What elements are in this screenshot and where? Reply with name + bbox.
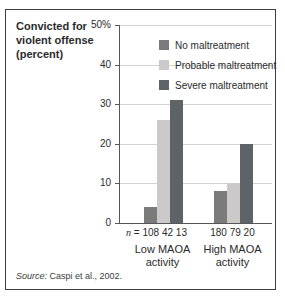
ytick-mark-20 bbox=[115, 144, 119, 145]
ytick-label-30: 30 bbox=[11, 98, 111, 110]
n-values-high-maoa-activity: 180 79 20 bbox=[210, 227, 255, 238]
gridline-50 bbox=[120, 25, 272, 26]
chart-title-line-2: violent offense bbox=[16, 33, 94, 47]
ytick-label-0: 0 bbox=[11, 217, 111, 229]
bar-severe-maltreatment-low-maoa-activity bbox=[170, 100, 183, 223]
figure-panel: Convicted for violent offense (percent) … bbox=[5, 9, 276, 290]
bar-no-maltreatment-low-maoa-activity bbox=[144, 207, 157, 223]
ytick-label-40: 40 bbox=[11, 59, 111, 71]
category-label-high-maoa-activity: High MAOAactivity bbox=[203, 243, 261, 269]
source-prefix: Source: bbox=[16, 271, 47, 281]
ytick-mark-50 bbox=[115, 25, 119, 26]
ytick-label-10: 10 bbox=[11, 177, 111, 189]
ytick-label-50: 50% bbox=[11, 19, 111, 31]
bar-no-maltreatment-high-maoa-activity bbox=[214, 191, 227, 223]
ytick-mark-10 bbox=[115, 183, 119, 184]
bar-probable-maltreatment-low-maoa-activity bbox=[157, 120, 170, 223]
legend-swatch-no-maltreatment bbox=[159, 40, 169, 50]
bar-probable-maltreatment-high-maoa-activity bbox=[227, 183, 240, 223]
category-label-low-maoa-activity: Low MAOAactivity bbox=[135, 243, 191, 269]
source-note: Source: Caspi et al., 2002. bbox=[16, 271, 122, 281]
legend: No maltreatmentProbable maltreatmentSeve… bbox=[159, 35, 276, 95]
gridline-30 bbox=[120, 104, 272, 105]
legend-swatch-severe-maltreatment bbox=[159, 80, 169, 90]
n-symbol: n bbox=[126, 227, 131, 238]
plot-area: No maltreatmentProbable maltreatmentSeve… bbox=[119, 25, 272, 224]
ytick-mark-0 bbox=[115, 223, 119, 224]
legend-label-severe-maltreatment: Severe maltreatment bbox=[175, 80, 268, 91]
ytick-label-20: 20 bbox=[11, 138, 111, 150]
ytick-mark-30 bbox=[115, 104, 119, 105]
n-values-low-maoa-activity: n = 108 42 13 bbox=[126, 227, 187, 238]
bar-severe-maltreatment-high-maoa-activity bbox=[240, 144, 253, 223]
legend-label-no-maltreatment: No maltreatment bbox=[175, 40, 249, 51]
legend-label-probable-maltreatment: Probable maltreatment bbox=[175, 60, 276, 71]
source-text: Caspi et al., 2002. bbox=[47, 271, 122, 281]
ytick-mark-40 bbox=[115, 65, 119, 66]
legend-item-no-maltreatment: No maltreatment bbox=[159, 35, 276, 55]
legend-swatch-probable-maltreatment bbox=[159, 60, 169, 70]
legend-item-severe-maltreatment: Severe maltreatment bbox=[159, 75, 276, 95]
legend-item-probable-maltreatment: Probable maltreatment bbox=[159, 55, 276, 75]
